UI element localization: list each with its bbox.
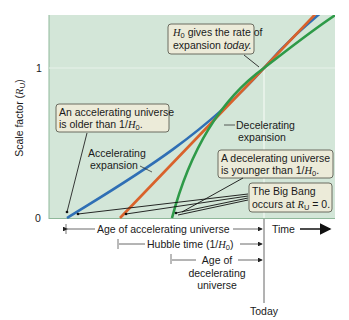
svg-text:decelerating: decelerating: [188, 267, 245, 279]
time-label: Time: [272, 223, 295, 235]
svg-text:An accelerating universe: An accelerating universe: [59, 106, 174, 118]
span-age-decelerating: Age of decelerating universe: [171, 254, 262, 291]
svg-text:The Big Bang: The Big Bang: [252, 185, 316, 197]
svg-text:universe: universe: [197, 279, 237, 291]
span-hubble-time: Hubble time (1/H0): [118, 238, 262, 252]
svg-text:A decelerating universe: A decelerating universe: [221, 152, 330, 164]
label-decelerating-2: expansion: [238, 131, 286, 143]
svg-text:is younger than 1/H0.: is younger than 1/H0.: [221, 164, 319, 178]
svg-text:expansion today.: expansion today.: [173, 39, 252, 51]
label-accelerating-2: expansion: [90, 159, 138, 171]
hubble-diagram: Scale factor (RU) 1 0 H0 gives the rate …: [0, 0, 349, 320]
y-tick-0: 0: [35, 212, 41, 224]
y-tick-1: 1: [36, 62, 42, 74]
label-decelerating-1: Decelerating: [236, 119, 295, 131]
svg-text:is older than 1/H0.: is older than 1/H0.: [59, 118, 143, 132]
svg-text:Age of: Age of: [202, 254, 232, 266]
svg-text:Age of accelerating universe: Age of accelerating universe: [97, 223, 230, 235]
today-label: Today: [250, 305, 279, 317]
svg-text:H0 gives the rate of: H0 gives the rate of: [172, 26, 262, 40]
svg-text:occurs at RU = 0.: occurs at RU = 0.: [252, 198, 330, 212]
svg-text:Hubble time (1/H0): Hubble time (1/H0): [147, 238, 233, 252]
y-axis-label: Scale factor (RU): [13, 79, 27, 157]
span-age-accelerating: Age of accelerating universe: [66, 223, 262, 235]
label-accelerating-1: Accelerating: [88, 147, 146, 159]
callout-decelerating-younger: A decelerating universe is younger than …: [218, 150, 333, 178]
